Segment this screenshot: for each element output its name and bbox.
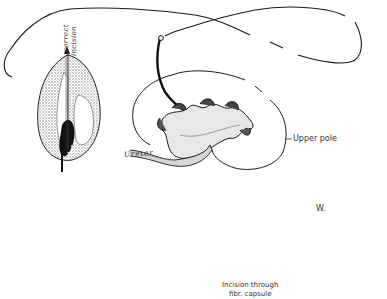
kidney-cross-section [38, 55, 101, 172]
surgical-diagram [0, 0, 387, 299]
renal-pelvis [158, 99, 253, 158]
caption-line-2: fibr. capsule [229, 290, 271, 298]
illustration [0, 0, 387, 299]
label-correct: correct [62, 24, 70, 52]
needle [157, 36, 186, 112]
label-upper-pole: Upper pole [293, 134, 337, 143]
caption-line-1: Incision through [222, 281, 278, 289]
label-incision: incision [70, 26, 78, 56]
label-initial: W. [316, 204, 326, 213]
